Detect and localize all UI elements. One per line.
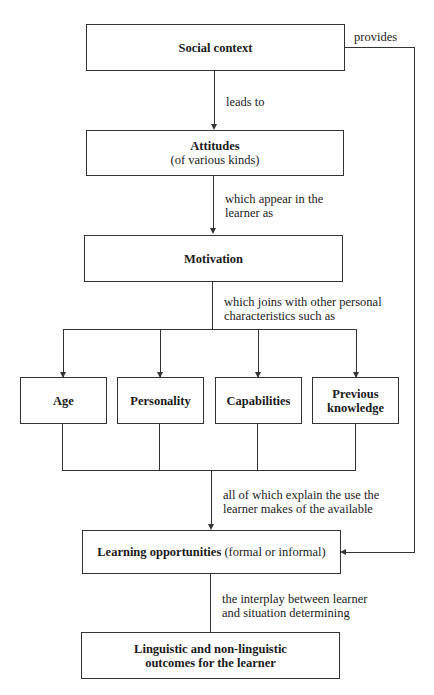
merge-personality xyxy=(159,424,160,471)
merge-age xyxy=(62,424,63,471)
edge-leads-to xyxy=(214,71,215,125)
branch-capabilities xyxy=(258,329,259,377)
branch-personality xyxy=(160,329,161,377)
branch-bar-top xyxy=(63,329,357,330)
node-title: Capabilities xyxy=(227,394,291,408)
edge-label-provides: provides xyxy=(354,30,397,44)
node-title-line1: Linguistic and non-linguistic xyxy=(134,642,287,656)
node-capabilities: Capabilities xyxy=(215,377,302,424)
node-title: Social context xyxy=(179,41,253,55)
edge-provides-top xyxy=(345,47,415,48)
edge-interplay xyxy=(210,574,211,633)
merge-previous-knowledge xyxy=(355,424,356,471)
node-attitudes: Attitudes (of various kinds) xyxy=(86,130,344,176)
edge-label-interplay: the interplay between learner and situat… xyxy=(222,592,367,620)
node-title: Personality xyxy=(130,394,190,408)
edge-label-joins: which joins with other personal characte… xyxy=(224,295,382,323)
merge-bar xyxy=(62,470,356,471)
branch-previous-knowledge xyxy=(356,329,357,377)
edge-label-line: all of which explain the use the xyxy=(223,488,379,502)
node-title-line2: outcomes for the learner xyxy=(145,656,276,670)
node-social-context: Social context xyxy=(86,24,345,71)
node-title: Attitudes xyxy=(190,139,239,153)
node-suffix: (formal or informal) xyxy=(224,545,325,559)
edge-provides-right xyxy=(414,47,415,553)
node-age: Age xyxy=(20,377,107,424)
node-personality: Personality xyxy=(117,377,204,424)
edge-label-line: the interplay between learner xyxy=(222,592,367,606)
edge-label-appear: which appear in the learner as xyxy=(225,192,323,220)
edge-label-leads-to: leads to xyxy=(226,95,265,109)
edge-label-explain: all of which explain the use the learner… xyxy=(223,488,379,516)
node-title: Age xyxy=(53,394,74,408)
node-subtitle: (of various kinds) xyxy=(171,153,260,167)
edge-label-line: learner makes of the available xyxy=(223,502,379,516)
node-title-line1: Previous xyxy=(332,387,378,401)
edge-label-line: which joins with other personal xyxy=(224,295,382,309)
node-outcomes: Linguistic and non-linguistic outcomes f… xyxy=(81,632,340,679)
edge-provides-bottom xyxy=(346,552,415,553)
node-title: Motivation xyxy=(184,252,243,266)
edge-label-line: learner as xyxy=(225,206,323,220)
arrow-down-icon xyxy=(210,228,216,234)
edge-label-line: characteristics such as xyxy=(224,309,382,323)
node-title: Learning opportunities xyxy=(97,545,221,559)
merge-capabilities xyxy=(257,424,258,471)
node-title-line2: knowledge xyxy=(327,401,384,415)
branch-age xyxy=(63,329,64,377)
edge-joins xyxy=(212,282,213,330)
edge-appear xyxy=(213,176,214,229)
edge-label-line: and situation determining xyxy=(222,606,367,620)
node-previous-knowledge: Previous knowledge xyxy=(312,377,399,424)
node-learning-opportunities: Learning opportunities (formal or inform… xyxy=(82,530,341,574)
edge-label-line: which appear in the xyxy=(225,192,323,206)
edge-explain xyxy=(211,470,212,525)
node-motivation: Motivation xyxy=(84,235,343,282)
